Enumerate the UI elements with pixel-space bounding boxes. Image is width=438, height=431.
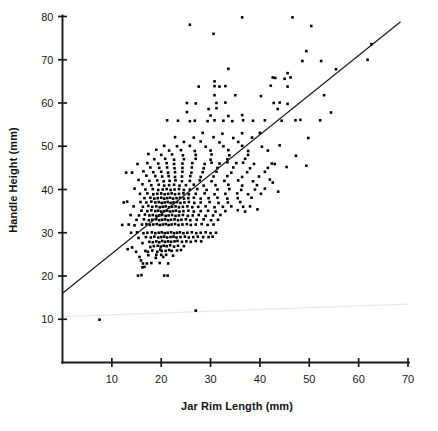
data-point [186,111,189,114]
data-point [162,180,165,183]
data-point [192,136,195,139]
data-point [157,209,160,212]
data-point [154,201,157,204]
data-point [204,231,207,234]
data-point [164,241,167,244]
plot-canvas: 102030405060708010203040506070 [0,0,438,431]
data-point [191,166,194,169]
y-tick-label: 10 [41,313,53,325]
data-point [183,158,186,161]
data-point [148,241,151,244]
data-point [160,196,163,199]
data-point [154,257,157,260]
data-point [155,240,158,243]
data-point [323,94,326,97]
data-point [181,241,184,244]
data-point [213,119,216,122]
data-point [182,192,185,195]
data-point [283,77,286,80]
data-point [189,145,192,148]
data-point [151,231,154,234]
data-point [212,223,215,226]
data-point [249,167,252,170]
data-point [170,218,173,221]
data-point [247,154,250,157]
data-point [185,218,188,221]
data-point [267,149,270,152]
data-point [202,218,205,221]
data-point [217,218,220,221]
data-point [212,136,215,139]
data-point [180,218,183,221]
data-point [144,213,147,216]
data-point [141,242,144,245]
data-point [98,318,101,321]
data-point [146,162,149,165]
data-point [320,60,323,63]
data-point [176,231,179,234]
data-point [189,120,192,123]
data-point [167,193,170,196]
data-point [174,136,177,139]
data-point [137,179,140,182]
data-point [125,171,128,174]
data-point [145,174,148,177]
data-point [231,120,234,123]
data-point [163,193,166,196]
data-point [196,235,199,238]
data-point [192,236,195,239]
data-point [186,231,189,234]
x-tick-label: 60 [353,373,365,385]
data-point [173,158,176,161]
data-point [181,162,184,165]
data-point [182,154,185,157]
data-point [286,103,289,106]
data-point [209,149,212,152]
data-point [170,250,173,253]
data-point [172,254,175,257]
data-point [195,232,198,235]
data-point [184,235,187,238]
data-point [174,205,177,208]
data-point [205,189,208,192]
data-point [207,108,210,111]
data-point [191,231,194,234]
data-point [241,145,244,148]
data-point [166,236,169,239]
data-point [202,167,205,170]
data-point [194,154,197,157]
data-point [156,193,159,196]
data-point [174,193,177,196]
data-point [194,157,197,160]
data-point [177,244,180,247]
data-point [137,274,140,277]
data-point [142,262,145,265]
data-point [209,158,212,161]
data-point [186,205,189,208]
data-point [216,188,219,191]
data-point [160,231,163,234]
data-point [227,201,230,204]
data-point [160,192,163,195]
data-point [182,206,185,209]
data-point [237,141,240,144]
data-point [144,250,147,253]
data-point [207,209,210,212]
data-point [121,224,124,227]
data-point [277,190,280,193]
data-point [170,192,173,195]
data-point [178,214,181,217]
data-point [224,193,227,196]
data-point [146,262,149,265]
data-point [152,193,155,196]
data-point [161,175,164,178]
data-point [194,102,197,105]
data-point [147,254,150,257]
data-point [178,188,181,191]
data-point [166,201,169,204]
data-point [177,119,180,122]
data-point [147,250,150,253]
data-point [218,141,221,144]
trendline-layer [63,22,401,294]
scatter-plot-figure: 102030405060708010203040506070 Handle He… [0,0,438,431]
